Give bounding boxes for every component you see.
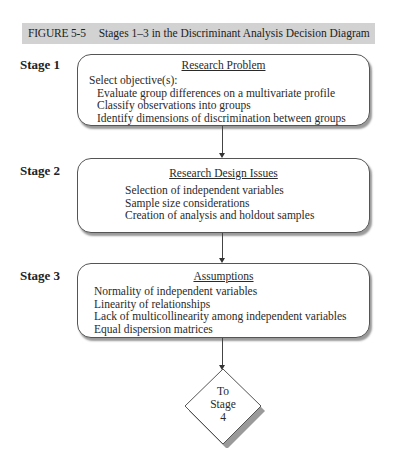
stage-1-intro: Select objective(s): (89, 74, 369, 87)
connector-line-3-4 (222, 338, 223, 368)
to-stage-4-connector: To Stage 4 (185, 368, 261, 444)
stage-1-item: Identify dimensions of discrimination be… (89, 112, 369, 125)
to-stage-4-text: To Stage 4 (185, 385, 261, 424)
connector-line-2-3 (222, 233, 223, 258)
connector-line-text: To (185, 385, 261, 398)
figure-title-bar: FIGURE 5-5 Stages 1–3 in the Discriminan… (22, 23, 375, 44)
stage-3-item: Normality of independent variables (94, 285, 369, 298)
stage-2-box: Research Design Issues Selection of inde… (77, 158, 370, 233)
figure-number: FIGURE 5-5 (28, 27, 86, 39)
stage-2-item: Creation of analysis and holdout samples (125, 209, 369, 222)
stage-3-items: Normality of independent variables Linea… (78, 285, 369, 335)
figure-caption: Stages 1–3 in the Discriminant Analysis … (99, 27, 370, 39)
stage-1-title: Research Problem (78, 59, 369, 72)
stage-3-box: Assumptions Normality of independent var… (77, 263, 370, 338)
stage-2-items: Selection of independent variables Sampl… (78, 184, 369, 222)
stage-3-label: Stage 3 (20, 268, 60, 284)
stage-2-item: Sample size considerations (125, 197, 369, 210)
stage-2-item: Selection of independent variables (125, 184, 369, 197)
stage-1-objectives: Select objective(s): Evaluate group diff… (78, 74, 369, 124)
stage-1-label: Stage 1 (20, 57, 60, 73)
connector-line-text: Stage (185, 398, 261, 411)
stage-1-item: Evaluate group differences on a multivar… (89, 87, 369, 100)
stage-2-title: Research Design Issues (78, 167, 369, 180)
stage-1-box: Research Problem Select objective(s): Ev… (77, 54, 370, 126)
stage-1-item: Classify observations into groups (89, 99, 369, 112)
stage-3-title: Assumptions (78, 270, 369, 283)
connector-line-1-2 (222, 126, 223, 153)
stage-3-item: Linearity of relationships (94, 298, 369, 311)
stage-3-item: Equal dispersion matrices (94, 323, 369, 336)
stage-3-item: Lack of multicollinearity among independ… (94, 310, 369, 323)
stage-2-label: Stage 2 (20, 163, 60, 179)
connector-line-text: 4 (185, 411, 261, 424)
